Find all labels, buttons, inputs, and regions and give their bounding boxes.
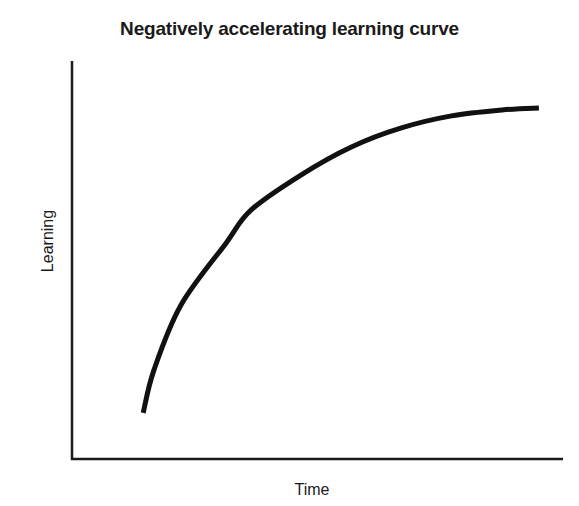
plot-area	[0, 0, 579, 506]
learning-curve-line	[143, 108, 539, 413]
x-axis-label: Time	[282, 481, 342, 499]
y-axis-label: Learning	[39, 201, 57, 281]
